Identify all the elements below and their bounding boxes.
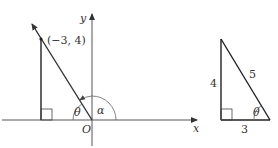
triangle-hypotenuse-label: 5 xyxy=(249,68,256,81)
triangle-hypotenuse xyxy=(221,39,270,120)
triangle-opposite-label: 4 xyxy=(210,77,217,90)
alpha-label: α xyxy=(97,104,105,117)
y-axis-label: y xyxy=(79,12,87,25)
x-axis-label: x xyxy=(193,122,200,135)
origin-label: O xyxy=(82,123,91,136)
right-angle-marker xyxy=(41,109,52,120)
triangle-right-angle-marker xyxy=(221,109,232,120)
theta-label: θ xyxy=(74,106,81,119)
point-label: (−3, 4) xyxy=(47,34,86,47)
triangle-adjacent-label: 3 xyxy=(241,123,248,136)
trig-diagram: y x O (−3, 4) θ α θ 4 5 3 xyxy=(0,0,278,148)
triangle-theta-label: θ xyxy=(253,106,260,119)
